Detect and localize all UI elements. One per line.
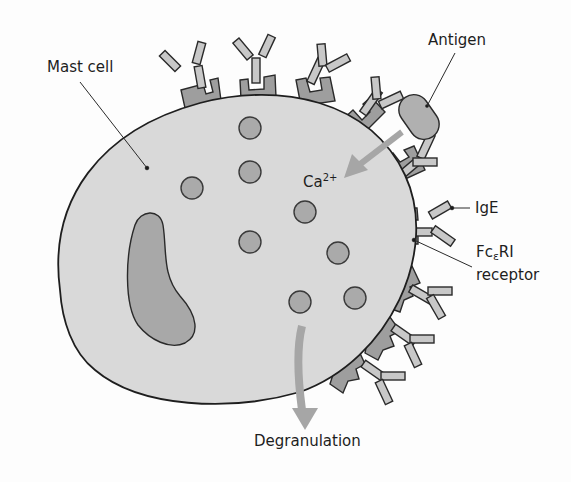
granule [294, 201, 316, 223]
receptor-complex-2 [233, 34, 276, 99]
calcium-charge: 2+ [323, 172, 338, 183]
granule [289, 291, 311, 313]
antigen-label: Antigen [428, 33, 486, 48]
receptor-suffix: RI [499, 243, 514, 261]
granule [181, 177, 203, 199]
fc-epsilon-ri-label: FcεRI [476, 245, 514, 262]
granule [239, 117, 261, 139]
receptor-prefix: Fc [476, 243, 493, 261]
receptor-leader [414, 240, 472, 267]
granule [239, 161, 261, 183]
degranulation-label: Degranulation [254, 434, 361, 449]
receptor-label: receptor [476, 268, 539, 283]
ige-label: IgE [475, 201, 498, 216]
calcium-label: Ca2+ [303, 173, 337, 190]
mast-cell-label: Mast cell [47, 60, 113, 75]
calcium-symbol: Ca [303, 173, 323, 191]
granule [239, 231, 261, 253]
granule [344, 287, 366, 309]
antigen [393, 53, 455, 145]
receptor-complex-3 [296, 44, 350, 106]
diagram-canvas: Mast cell Antigen Ca2+ IgE FcεRI recepto… [0, 0, 571, 482]
granule [327, 242, 349, 264]
